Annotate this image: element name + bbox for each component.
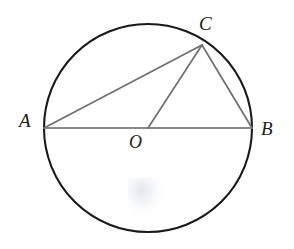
geometry-canvas: [0, 0, 294, 249]
geometry-figure: A B C O: [0, 0, 294, 249]
vertex-label-c: C: [199, 14, 212, 33]
vertex-label-b: B: [261, 119, 273, 138]
center-label-o: O: [129, 133, 142, 151]
vertex-label-a: A: [19, 111, 31, 130]
segment-ac-chord: [44, 45, 202, 128]
segment-oc-radius: [148, 45, 202, 128]
